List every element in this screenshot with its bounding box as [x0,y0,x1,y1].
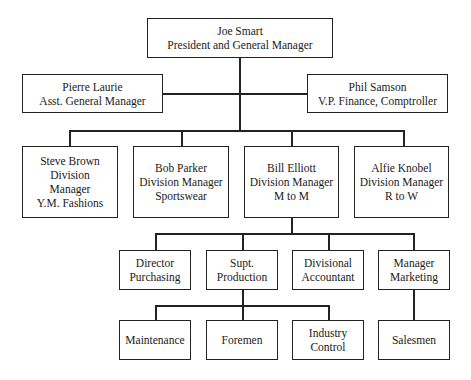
node-asst-gm: Pierre Laurie Asst. General Manager [22,74,163,113]
node-president: Joe Smart President and General Manager [147,18,333,58]
connector-drop [403,130,405,146]
node-division-r-to-w: Alfie Knobel Division Manager R to W [354,146,449,218]
connector-drop [291,130,293,146]
node-title: Accountant [301,270,354,284]
node-name: Alfie Knobel [371,161,431,175]
node-title: Control [310,340,345,354]
connector-drop [242,233,244,250]
node-title: Divisional [304,256,352,270]
node-industry-control: Industry Control [292,320,364,360]
connector-drop [328,305,330,320]
node-title: Manager [50,182,91,196]
connector-drop [328,233,330,250]
node-foremen: Foremen [206,320,278,360]
node-title: Salesmen [392,333,436,347]
connector-drop [413,233,415,250]
node-unit: Sportswear [155,189,207,203]
connector-divisions [69,130,404,132]
node-name: Joe Smart [217,24,263,38]
node-title: Supt. [230,256,254,270]
node-maintenance: Maintenance [119,320,191,360]
node-division-sportswear: Bob Parker Division Manager Sportswear [133,146,229,218]
connector-drop [155,233,157,250]
node-title: Asst. General Manager [39,94,145,108]
node-supt-production: Supt. Production [206,250,278,290]
connector-trunk [239,58,241,131]
node-unit: Y.M. Fashions [37,196,104,210]
node-manager-marketing: Manager Marketing [378,250,450,290]
node-unit: M to M [274,189,309,203]
node-name: Steve Brown [40,154,100,168]
node-director-purchasing: Director Purchasing [119,250,191,290]
node-title: Industry [309,326,347,340]
node-title: Division Manager [360,175,443,189]
node-name: Bob Parker [155,161,207,175]
node-salesmen: Salesmen [378,320,450,360]
node-title: Production [217,270,267,284]
connector-drop [181,130,183,146]
node-title: Foremen [222,333,263,347]
connector-drop [69,130,71,146]
node-name: Pierre Laurie [62,80,122,94]
connector-level4 [155,233,414,235]
node-title: Maintenance [125,333,184,347]
node-name: Phil Samson [349,80,407,94]
connector-drop [155,305,157,320]
node-title: Manager [394,256,435,270]
connector-m-to-m [291,218,293,234]
connector-marketing [413,290,415,320]
connector-level5 [155,305,329,307]
node-title: Division Manager [250,175,333,189]
node-title: Marketing [390,270,438,284]
node-unit: R to W [385,189,418,203]
node-title: Director [136,256,174,270]
node-title: Division [50,168,90,182]
node-divisional-accountant: Divisional Accountant [292,250,364,290]
connector-staff [163,93,307,95]
node-title: Division Manager [139,175,222,189]
node-title: V.P. Finance, Comptroller [318,94,437,108]
node-title: President and General Manager [167,38,312,52]
node-vp-finance: Phil Samson V.P. Finance, Comptroller [307,74,448,113]
node-title: Purchasing [129,270,180,284]
node-name: Bill Elliott [267,161,316,175]
node-division-m-to-m: Bill Elliott Division Manager M to M [244,146,339,218]
node-division-ym-fashions: Steve Brown Division Manager Y.M. Fashio… [22,146,118,218]
